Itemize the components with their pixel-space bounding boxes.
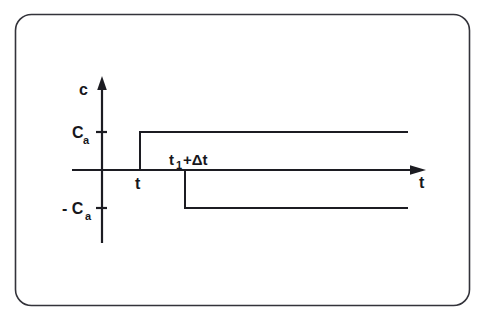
figure-root: c t C a - C a t t 1 +Δt [0,0,485,324]
diagram-frame [16,15,470,306]
first-transition-label: t [135,175,141,192]
y-label-negative-subscript: a [85,210,92,222]
y-label-negative: - C [62,200,84,217]
y-axis-label: c [79,81,88,98]
y-label-positive-subscript: a [83,134,90,146]
x-axis-label: t [419,174,425,191]
step-signal-diagram: c t C a - C a t t 1 +Δt [0,0,485,324]
second-transition-label: t [169,151,174,168]
second-transition-label-delta: +Δt [183,151,208,168]
second-transition-label-subscript: 1 [176,159,182,171]
